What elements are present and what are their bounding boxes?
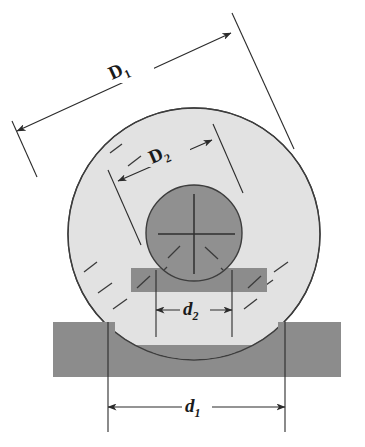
diagram-canvas: D1 D2 d2	[0, 0, 365, 447]
lower-plate-outside-right	[278, 322, 341, 377]
technical-diagram: D1 D2 d2	[0, 0, 365, 447]
D1-extension-left	[12, 121, 37, 177]
lower-plate-outside-left	[53, 322, 115, 377]
